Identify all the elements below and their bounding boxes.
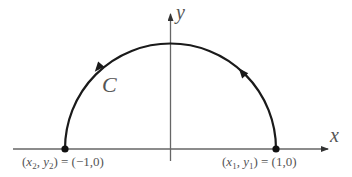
point-label-x2-y2: (x2, y2) = (−1,0) xyxy=(22,154,104,171)
point-label-x1-y1: (x1, y1) = (1,0) xyxy=(222,154,297,171)
curve-label: C xyxy=(102,72,117,97)
point-x2-y2 xyxy=(61,145,68,152)
y-axis-label: y xyxy=(174,1,185,24)
semicircle-contour-diagram: y x C (x2, y2) = (−1,0) (x1, y1) = (1,0) xyxy=(0,0,352,177)
x-axis-label: x xyxy=(329,124,339,146)
point-x1-y1 xyxy=(272,145,279,152)
